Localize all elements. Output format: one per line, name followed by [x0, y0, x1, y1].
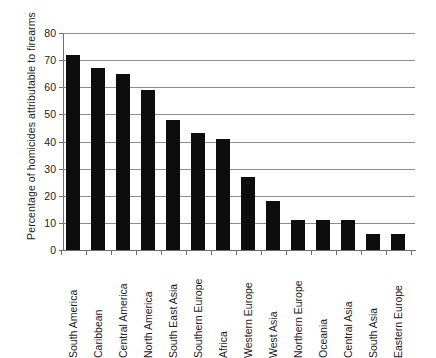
- x-category-label-text: South Asia: [364, 254, 382, 358]
- x-category-label: South Asia: [364, 254, 382, 358]
- x-tick-mark: [61, 251, 62, 255]
- x-category-label-text: Southern Europe: [189, 254, 207, 358]
- y-tick-label-50: 50: [44, 108, 56, 120]
- x-category-label: Central Asia: [339, 254, 357, 358]
- x-category-label-text: Central America: [114, 254, 132, 358]
- y-tick-label-20: 20: [44, 190, 56, 202]
- x-category-label: Caribbean: [89, 254, 107, 358]
- y-tick-label-30: 30: [44, 163, 56, 175]
- y-tick-label-10: 10: [44, 217, 56, 229]
- bar: [266, 201, 280, 250]
- x-category-label-text: Western Europe: [239, 254, 257, 358]
- x-category-label: Central America: [114, 254, 132, 358]
- bar: [391, 234, 405, 250]
- y-tick-label-70: 70: [44, 54, 56, 66]
- x-category-label-text: Caribbean: [89, 254, 107, 358]
- gridline-70: [63, 60, 415, 61]
- y-tick-label-0: 0: [50, 244, 56, 256]
- x-category-label-text: South America: [64, 254, 82, 358]
- x-category-label: West Asia: [264, 254, 282, 358]
- bar: [316, 220, 330, 250]
- gridline-80: [63, 33, 415, 34]
- y-tick-mark-20: [59, 196, 63, 197]
- x-category-label: Western Europe: [239, 254, 257, 358]
- x-category-label-text: North America: [139, 254, 157, 358]
- bar: [166, 120, 180, 250]
- y-tick-mark-10: [59, 223, 63, 224]
- x-category-label: Oceania: [314, 254, 332, 358]
- y-tick-mark-30: [59, 169, 63, 170]
- bar: [241, 177, 255, 250]
- x-category-label: Northern Europe: [289, 254, 307, 358]
- x-category-label-text: South East Asia: [164, 254, 182, 358]
- x-category-label: South America: [64, 254, 82, 358]
- y-tick-label-40: 40: [44, 136, 56, 148]
- x-category-label-text: Africa: [214, 254, 232, 358]
- bar: [91, 68, 105, 250]
- y-tick-mark-40: [59, 142, 63, 143]
- x-category-label: Africa: [214, 254, 232, 358]
- bar: [66, 55, 80, 250]
- y-axis-title: Percentage of homicides attributable to …: [22, 0, 40, 252]
- x-axis-category-labels: South AmericaCaribbeanCentral AmericaNor…: [63, 254, 415, 358]
- x-category-label: Southern Europe: [189, 254, 207, 358]
- y-tick-mark-50: [59, 114, 63, 115]
- bar: [216, 139, 230, 250]
- x-category-label-text: Central Asia: [339, 254, 357, 358]
- x-category-label: South East Asia: [164, 254, 182, 358]
- plot-area: 01020304050607080: [63, 33, 415, 250]
- bar: [141, 90, 155, 250]
- x-category-label: Eastern Europe: [389, 254, 407, 358]
- x-category-label-text: Oceania: [314, 254, 332, 358]
- x-axis-line: [63, 250, 416, 251]
- y-tick-mark-60: [59, 87, 63, 88]
- y-tick-label-60: 60: [44, 81, 56, 93]
- bar: [291, 220, 305, 250]
- bar: [116, 74, 130, 250]
- y-tick-mark-80: [59, 33, 63, 34]
- bar-chart-figure: Percentage of homicides attributable to …: [0, 0, 436, 358]
- x-category-label-text: Eastern Europe: [389, 254, 407, 358]
- bar: [341, 220, 355, 250]
- y-tick-label-80: 80: [44, 27, 56, 39]
- x-category-label-text: Northern Europe: [289, 254, 307, 358]
- x-category-label-text: West Asia: [264, 254, 282, 358]
- bar: [191, 133, 205, 250]
- bar: [366, 234, 380, 250]
- x-category-label: North America: [139, 254, 157, 358]
- y-tick-mark-70: [59, 60, 63, 61]
